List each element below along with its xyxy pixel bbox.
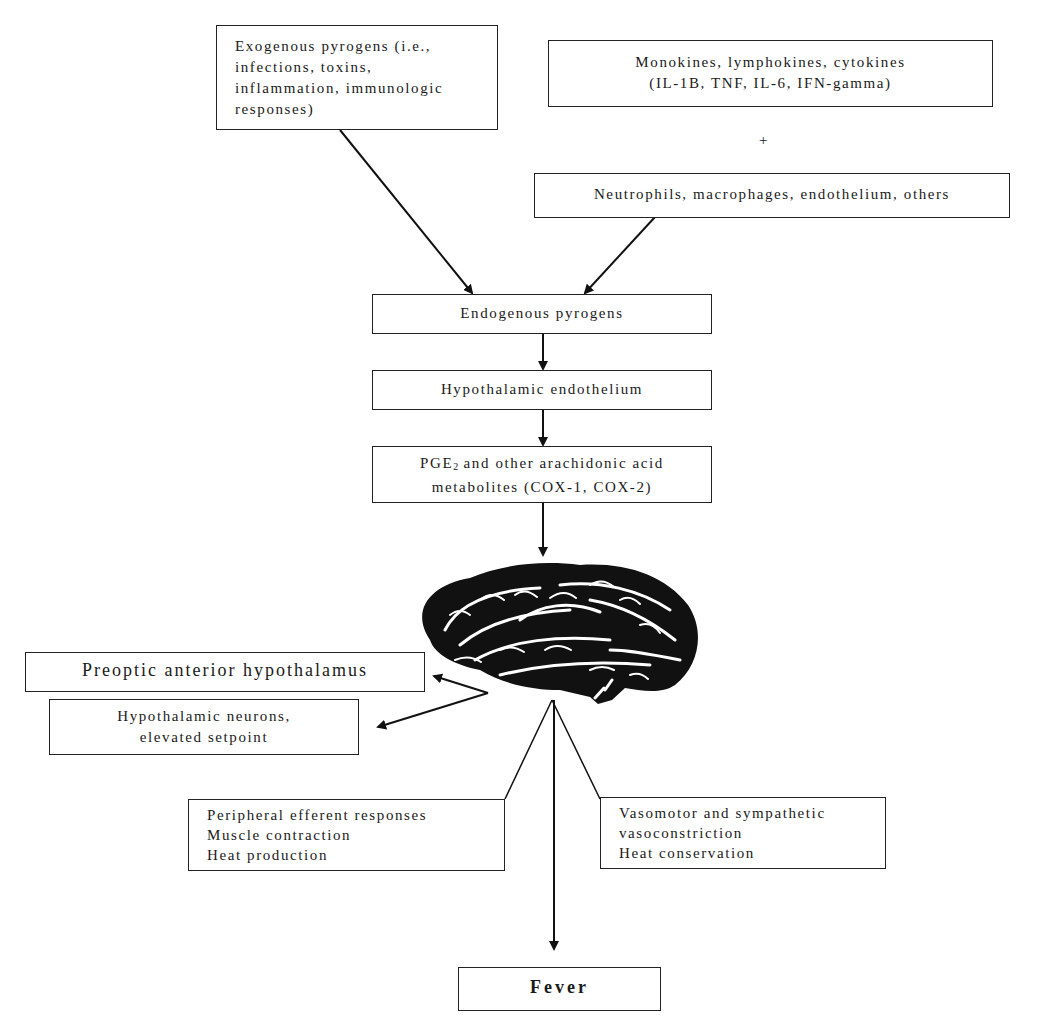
arrow-exogenous-to-endogenous [340,130,472,293]
arrow-brain-to-neurons [378,693,488,727]
node-text-line1: PGE2 and other arachidonic acid [373,453,711,477]
node-text-line2: metabolites (COX-1, COX-2) [373,477,711,498]
node-text: Peripheral efferent responses [207,805,504,825]
node-exogenous-pyrogens: Exogenous pyrogens (i.e., infections, to… [216,25,498,130]
plus-sign: + [759,132,767,149]
node-text: Neutrophils, macrophages, endothelium, o… [535,184,1009,205]
pge-suffix: and other arachidonic acid [458,455,664,471]
line-brain-to-peripheral [505,700,552,799]
node-text: Fever [459,977,660,998]
node-text: Muscle contraction [207,825,504,845]
node-endogenous-pyrogens: Endogenous pyrogens [372,294,712,334]
node-pge2: PGE2 and other arachidonic acid metaboli… [372,446,712,503]
node-text: infections, toxins, [235,57,497,78]
node-text: (IL-1B, TNF, IL-6, IFN-gamma) [549,73,992,94]
node-text: Heat production [207,845,504,865]
node-peripheral-efferent: Peripheral efferent responses Muscle con… [188,799,505,871]
node-text: vasoconstriction [619,823,885,843]
node-preoptic-anterior-hypothalamus: Preoptic anterior hypothalamus [25,652,425,692]
node-text: Heat conservation [619,843,885,863]
node-hypothalamic-neurons: Hypothalamic neurons, elevated setpoint [49,699,359,755]
node-text: elevated setpoint [50,727,358,748]
node-text: Endogenous pyrogens [373,303,711,324]
node-text: Preoptic anterior hypothalamus [26,660,424,681]
arrow-cells-to-endogenous [585,217,655,293]
brain-icon [422,563,698,704]
pge-label: PGE [420,455,453,471]
node-text: Vasomotor and sympathetic [619,803,885,823]
node-cytokines: Monokines, lymphokines, cytokines (IL-1B… [548,40,993,107]
node-text: Exogenous pyrogens (i.e., [235,36,497,57]
node-vasomotor: Vasomotor and sympathetic vasoconstricti… [600,797,886,869]
node-fever: Fever [458,967,661,1011]
node-text: Hypothalamic endothelium [373,379,711,400]
node-hypothalamic-endothelium: Hypothalamic endothelium [372,370,712,410]
node-text: inflammation, immunologic [235,78,497,99]
node-text: Monokines, lymphokines, cytokines [549,52,992,73]
node-cells: Neutrophils, macrophages, endothelium, o… [534,173,1010,218]
line-brain-to-vasomotor [552,700,600,799]
node-text: responses) [235,99,497,120]
node-text: Hypothalamic neurons, [50,706,358,727]
arrow-brain-to-preoptic [434,676,488,693]
connector-layer [0,0,1060,1021]
